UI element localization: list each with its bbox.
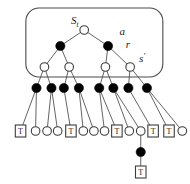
action-node [103, 41, 112, 50]
search-tree-diagram: TTTTTT Stars' [0, 0, 190, 184]
action-node [47, 83, 56, 92]
terminal-node: T [112, 125, 123, 137]
state-node [101, 63, 110, 72]
state-node [40, 63, 49, 72]
state-node [126, 63, 135, 72]
terminal-node: T [148, 125, 159, 137]
terminal-label: T [18, 127, 23, 136]
action-label: a [120, 25, 126, 37]
action-node [136, 147, 145, 156]
terminal-node: T [15, 125, 26, 137]
state-node [65, 63, 74, 72]
state-node [79, 127, 88, 136]
tree-edge [36, 88, 37, 131]
terminal-label: T [68, 127, 73, 136]
terminal-node: T [164, 125, 175, 137]
action-node [95, 83, 104, 92]
state-node [136, 127, 145, 136]
tree-edge [51, 88, 57, 131]
terminal-node: T [66, 125, 77, 137]
tree-edge [47, 88, 51, 131]
state-node [90, 127, 99, 136]
state-node [31, 127, 40, 136]
figure-canvas: TTTTTT Stars' [0, 0, 190, 184]
root-state-label: St [71, 14, 80, 29]
state-node [53, 127, 62, 136]
action-node [124, 83, 133, 92]
terminal-node: T [135, 166, 146, 178]
action-node [109, 83, 118, 92]
reward-label: r [126, 38, 131, 50]
state-node [125, 127, 134, 136]
action-node [142, 83, 151, 92]
action-node [59, 83, 68, 92]
terminal-label: T [167, 127, 172, 136]
labels-layer: Stars' [71, 14, 145, 64]
terminal-label: T [151, 127, 156, 136]
terminal-label: T [114, 127, 119, 136]
edges-layer [21, 30, 183, 172]
action-node [32, 83, 41, 92]
action-node [74, 83, 83, 92]
terminal-label: T [138, 168, 143, 177]
state-node [100, 127, 109, 136]
state-node [178, 127, 187, 136]
next-state-label: s' [139, 52, 145, 64]
action-node [56, 41, 65, 50]
state-node [80, 26, 89, 35]
state-node [43, 127, 52, 136]
